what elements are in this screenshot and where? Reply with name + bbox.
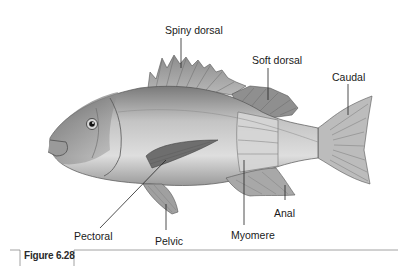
fish-diagram: Spiny dorsal Soft dorsal Caudal Pectoral… — [0, 0, 398, 269]
label-pectoral: Pectoral — [74, 231, 113, 242]
caudal-fin — [318, 96, 372, 184]
pelvic-fin — [143, 184, 178, 214]
label-spiny-dorsal: Spiny dorsal — [165, 25, 223, 36]
fish-illustration — [0, 0, 398, 269]
figure-caption: Figure 6.28 — [24, 250, 75, 261]
label-caudal: Caudal — [332, 72, 365, 83]
label-myomere: Myomere — [231, 230, 275, 241]
label-pelvic: Pelvic — [155, 236, 183, 247]
label-soft-dorsal: Soft dorsal — [252, 55, 302, 66]
label-anal: Anal — [274, 208, 295, 219]
fish-mouth — [48, 140, 68, 156]
myomere-region — [237, 112, 278, 172]
